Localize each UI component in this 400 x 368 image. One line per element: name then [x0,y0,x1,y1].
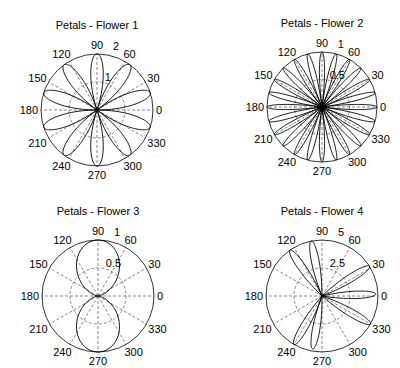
petal [97,90,150,110]
angle-tick-label: 30 [371,69,383,81]
angle-tick-label: 210 [29,323,47,335]
angle-tick-label: 270 [313,165,331,177]
petal-curve [267,52,377,162]
angle-tick-label: 300 [349,346,367,358]
petal [311,296,322,349]
angle-tick-label: 240 [278,156,296,168]
angle-tick-label: 60 [124,48,136,60]
angle-tick-label: 180 [20,104,38,116]
angle-tick-label: 210 [253,323,271,335]
angle-tick-label: 180 [21,290,39,302]
plot-title: Petals - Flower 1 [56,19,139,31]
angle-tick-label: 0 [381,290,387,302]
angle-tick-label: 240 [52,160,70,172]
angle-tick-label: 180 [246,101,264,113]
angle-tick-label: 180 [245,290,263,302]
grid-spoke [50,296,98,324]
angle-tick-label: 150 [254,69,272,81]
angle-tick-label: 120 [278,46,296,58]
radial-tick-label: 5 [338,226,344,238]
polar-plot-flower-4: Petals - Flower 4 0306090120150180210240… [245,205,391,367]
angle-tick-label: 270 [313,355,331,367]
petal [44,110,97,130]
angle-tick-label: 210 [254,133,272,145]
angle-tick-label: 120 [53,234,71,246]
angle-tick-label: 330 [148,323,166,335]
angle-tick-label: 150 [29,258,47,270]
angle-tick-label: 0 [156,104,162,116]
angle-tick-label: 90 [91,39,103,51]
polar-plot-flower-2: Petals - Flower 2 0306090120150180210240… [246,17,390,177]
radial-tick-label: 1 [114,226,120,238]
grid-spoke [98,296,146,324]
angle-tick-label: 0 [157,290,163,302]
angle-tick-label: 210 [28,137,46,149]
angle-tick-label: 30 [148,258,160,270]
grid-spoke [322,296,370,324]
radial-tick-label: 2.5 [330,257,345,269]
polar-plot-flower-3: Petals - Flower 3 0306090120150180210240… [21,205,167,367]
angle-tick-label: 330 [147,137,165,149]
petal [289,250,322,296]
radial-tick-label: 1 [338,38,344,50]
angle-tick-label: 30 [372,258,384,270]
plot-title: Petals - Flower 3 [57,205,140,217]
angle-tick-label: 300 [125,346,143,358]
petal [293,296,322,345]
angle-tick-label: 240 [53,346,71,358]
angle-tick-label: 300 [124,160,142,172]
angle-tick-label: 270 [88,169,106,181]
angle-tick-label: 60 [125,234,137,246]
angle-tick-label: 270 [89,355,107,367]
petal [322,291,376,298]
angle-tick-label: 90 [92,225,104,237]
plot-title: Petals - Flower 2 [281,17,364,29]
angle-tick-label: 90 [316,37,328,49]
polar-plot-flower-1: Petals - Flower 1 0306090120150180210240… [20,19,166,181]
angle-tick-label: 150 [28,72,46,84]
grid-spoke [322,296,350,344]
angle-tick-label: 330 [372,323,390,335]
petal [44,90,97,110]
angle-tick-label: 120 [277,234,295,246]
angle-tick-label: 330 [371,133,389,145]
figure-canvas: Petals - Flower 1 0306090120150180210240… [0,0,400,368]
angle-tick-label: 30 [147,72,159,84]
angle-tick-label: 60 [348,46,360,58]
angle-tick-label: 300 [348,156,366,168]
angle-tick-label: 60 [349,234,361,246]
grid-spoke [70,296,98,344]
angle-tick-label: 90 [316,225,328,237]
grid-spoke [98,296,126,344]
angle-tick-label: 240 [277,346,295,358]
angle-tick-label: 150 [253,258,271,270]
grid-spoke [294,296,322,344]
petal [97,110,150,130]
petal [322,296,371,325]
radial-tick-label: 2 [113,40,119,52]
plot-title: Petals - Flower 4 [281,205,364,217]
angle-tick-label: 120 [52,48,70,60]
angle-tick-label: 0 [380,101,386,113]
